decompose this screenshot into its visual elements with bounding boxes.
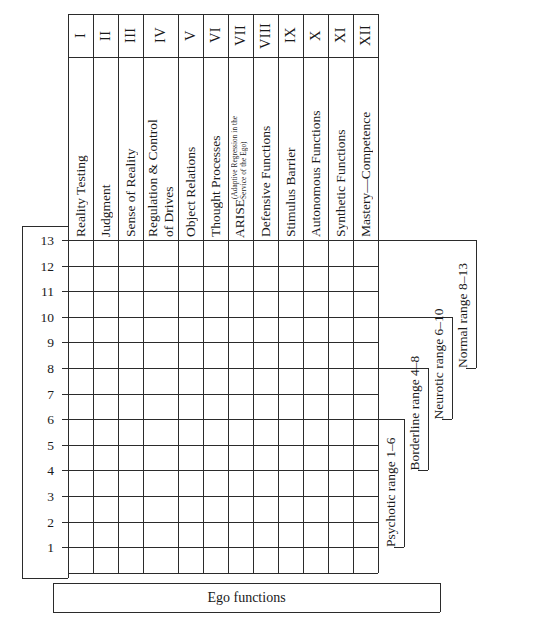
grid-row-line-9	[68, 342, 378, 343]
axis-tick-mark	[62, 547, 68, 548]
column-label-x: Autonomous Functions	[303, 60, 328, 237]
column-numeral-ii: II	[93, 14, 118, 57]
column-numeral-xii: XII	[353, 14, 378, 57]
axis-box-bottom	[22, 578, 68, 579]
column-numeral-iv: IV	[143, 14, 178, 57]
column-label-v: Object Relations	[178, 60, 203, 237]
axis-tick-4: 4	[30, 464, 54, 478]
axis-tick-7: 7	[30, 388, 54, 402]
axis-tick-6: 6	[30, 413, 54, 427]
grid-column-line	[203, 240, 204, 573]
axis-tick-mark	[62, 291, 68, 292]
column-label-xi: Synthetic Functions	[328, 60, 353, 237]
grid-row-line-7	[68, 394, 378, 395]
grid-column-line	[303, 240, 304, 573]
axis-tick-10: 10	[30, 311, 54, 325]
range-bracket-spine-1	[428, 368, 429, 470]
range-label-2: Neurotic range 6–10	[432, 317, 446, 419]
axis-box-left	[22, 226, 23, 578]
axis-box-top	[22, 226, 68, 227]
grid-column-line	[278, 240, 279, 573]
ego-function-profile-chart: IReality TestingIIJudgmentIIISense of Re…	[0, 0, 548, 638]
range-label-1: Borderline range 4–8	[408, 368, 422, 470]
column-numeral-x: X	[303, 14, 328, 57]
range-bracket-spine-2	[452, 317, 453, 419]
axis-box-right	[68, 226, 69, 578]
axis-tick-9: 9	[30, 336, 54, 350]
column-label-iii: Sense of Reality	[118, 60, 143, 237]
column-label-i: Reality Testing	[68, 60, 93, 237]
column-label-arise-sublabel: (Adaptive Regression in the Service of t…	[231, 116, 249, 199]
range-label-3: Normal range 8–13	[456, 240, 470, 368]
grid-row-line-3	[68, 496, 378, 497]
grid-row-line-13	[68, 240, 378, 241]
grid-column-line	[353, 240, 354, 573]
column-label-ix: Stimulus Barrier	[278, 60, 303, 237]
axis-tick-mark	[62, 240, 68, 241]
range-label-0: Psychotic range 1–6	[384, 419, 398, 547]
axis-tick-5: 5	[30, 439, 54, 453]
grid-column-line	[118, 240, 119, 573]
axis-tick-mark	[62, 445, 68, 446]
axis-tick-2: 2	[30, 516, 54, 530]
axis-tick-8: 8	[30, 362, 54, 376]
axis-tick-mark	[62, 496, 68, 497]
grid-row-line-5	[68, 445, 378, 446]
column-label-arise-main: ARISE	[233, 199, 248, 238]
axis-tick-mark	[62, 317, 68, 318]
grid-row-line-12	[68, 266, 378, 267]
axis-tick-13: 13	[30, 234, 54, 248]
column-numeral-i: I	[68, 14, 93, 57]
axis-tick-3: 3	[30, 490, 54, 504]
column-numeral-viii: VIII	[253, 14, 278, 57]
column-numeral-iii: III	[118, 14, 143, 57]
column-numeral-ix: IX	[278, 14, 303, 57]
range-bracket-bottom-3	[466, 368, 476, 369]
grid-row-line-11	[68, 291, 378, 292]
grid-column-line	[228, 240, 229, 573]
grid-row-line-4	[68, 470, 378, 471]
range-bracket-bottom-0	[394, 547, 404, 548]
caption-text: Ego functions	[53, 583, 440, 612]
grid-column-line	[178, 240, 179, 573]
grid-column-line	[378, 240, 379, 573]
axis-tick-mark	[62, 342, 68, 343]
axis-tick-12: 12	[30, 260, 54, 274]
header-right-border	[378, 14, 379, 240]
grid-row-line-10	[68, 317, 378, 318]
axis-tick-mark	[62, 470, 68, 471]
column-numeral-vii: VII	[228, 14, 253, 57]
axis-tick-11: 11	[30, 285, 54, 299]
grid-column-line	[253, 240, 254, 573]
range-bracket-spine-0	[404, 419, 405, 547]
column-numeral-vi: VI	[203, 14, 228, 57]
caption-right-border	[440, 583, 441, 612]
range-bracket-bottom-1	[418, 470, 428, 471]
axis-tick-1: 1	[30, 541, 54, 555]
column-label-arise: ARISE(Adaptive Regression in the Service…	[228, 59, 253, 238]
axis-tick-mark	[62, 266, 68, 267]
column-label-ii: Judgment	[93, 60, 118, 237]
axis-tick-mark	[62, 522, 68, 523]
column-label-iv: Regulation & Control of Drives	[143, 60, 178, 237]
grid-column-line	[143, 240, 144, 573]
caption-bottom-border	[53, 612, 440, 613]
grid-column-line	[328, 240, 329, 573]
column-label-vi: Thought Processes	[203, 60, 228, 237]
column-label-xii: Mastery—Competence	[353, 60, 378, 237]
range-bracket-spine-3	[476, 240, 477, 368]
column-numeral-v: V	[178, 14, 203, 57]
grid-row-line-1	[68, 547, 378, 548]
column-numeral-xi: XI	[328, 14, 353, 57]
grid-row-line-8	[68, 368, 378, 369]
grid-row-line-2	[68, 522, 378, 523]
axis-tick-mark	[62, 368, 68, 369]
column-label-viii: Defensive Functions	[253, 60, 278, 237]
axis-tick-mark	[62, 419, 68, 420]
grid-row-line-6	[68, 419, 378, 420]
grid-bottom-border	[68, 573, 378, 574]
numeral-band-divider	[68, 57, 378, 58]
grid-column-line	[93, 240, 94, 573]
axis-tick-mark	[62, 394, 68, 395]
